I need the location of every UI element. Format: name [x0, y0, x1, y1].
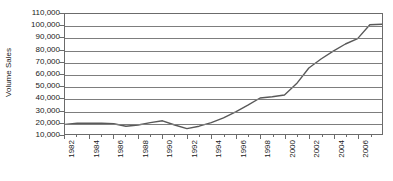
- x-tick-label: 2006: [362, 140, 370, 158]
- x-tick-mark-major: [211, 135, 212, 139]
- x-tick-mark-minor: [371, 135, 372, 137]
- y-tick-label: 110,000: [32, 9, 60, 17]
- y-tick-label: 30,000: [36, 107, 60, 115]
- y-axis-title-text: Volume Sales: [4, 48, 13, 97]
- gridline: [65, 75, 382, 76]
- x-tick-mark-major: [358, 135, 359, 139]
- y-tick-mark: [59, 98, 64, 99]
- x-axis-tick-labels: 1982198419861988199019921994199619982000…: [64, 140, 383, 181]
- x-tick-mark-minor: [273, 135, 274, 137]
- y-tick-label: 10,000: [36, 131, 60, 139]
- gridline: [65, 63, 382, 64]
- x-tick-mark-minor: [76, 135, 77, 137]
- x-tick-label: 1994: [215, 140, 223, 158]
- y-tick-label: 90,000: [36, 33, 60, 41]
- x-tick-mark-minor: [125, 135, 126, 137]
- x-tick-mark-minor: [322, 135, 323, 137]
- x-tick-mark-minor: [199, 135, 200, 137]
- x-tick-mark-minor: [101, 135, 102, 137]
- x-tick-label: 1996: [240, 140, 248, 158]
- x-tick-mark-major: [187, 135, 188, 139]
- y-tick-label: 70,000: [36, 58, 60, 66]
- x-tick-mark-minor: [297, 135, 298, 137]
- line-chart: Volume Sales 110,000100,00090,00080,0007…: [0, 0, 393, 181]
- gridline: [65, 99, 382, 100]
- gridline: [65, 112, 382, 113]
- x-tick-mark-major: [236, 135, 237, 139]
- x-tick-label: 1988: [142, 140, 150, 158]
- x-tick-mark-minor: [224, 135, 225, 137]
- y-tick-mark: [59, 37, 64, 38]
- x-tick-mark-major: [162, 135, 163, 139]
- series-line-volume-sales: [65, 14, 382, 134]
- x-tick-mark-minor: [346, 135, 347, 137]
- y-tick-mark: [59, 135, 64, 136]
- gridline: [65, 38, 382, 39]
- gridline: [65, 26, 382, 27]
- x-tick-mark-major: [138, 135, 139, 139]
- x-tick-label: 1982: [68, 140, 76, 158]
- y-tick-label: 80,000: [36, 46, 60, 54]
- gridline: [65, 51, 382, 52]
- y-tick-mark: [59, 25, 64, 26]
- y-tick-mark: [59, 13, 64, 14]
- y-tick-mark: [59, 74, 64, 75]
- x-tick-label: 1990: [166, 140, 174, 158]
- x-tick-label: 2000: [289, 140, 297, 158]
- gridline: [65, 124, 382, 125]
- x-tick-label: 1992: [191, 140, 199, 158]
- x-tick-mark-major: [89, 135, 90, 139]
- x-tick-mark-major: [64, 135, 65, 139]
- gridline: [65, 87, 382, 88]
- y-tick-label: 40,000: [36, 94, 60, 102]
- y-tick-mark: [59, 86, 64, 87]
- x-tick-label: 1984: [93, 140, 101, 158]
- x-tick-label: 1986: [117, 140, 125, 158]
- y-tick-mark: [59, 50, 64, 51]
- x-tick-mark-major: [334, 135, 335, 139]
- x-tick-label: 1998: [264, 140, 272, 158]
- x-tick-label: 2004: [338, 140, 346, 158]
- y-tick-label: 60,000: [36, 70, 60, 78]
- y-tick-label: 20,000: [36, 119, 60, 127]
- x-tick-mark-minor: [248, 135, 249, 137]
- y-tick-mark: [59, 62, 64, 63]
- x-tick-mark-major: [309, 135, 310, 139]
- y-axis-tick-labels: 110,000100,00090,00080,00070,00060,00050…: [16, 0, 62, 145]
- y-tick-mark: [59, 123, 64, 124]
- y-axis-title: Volume Sales: [0, 0, 16, 145]
- x-tick-mark-major: [113, 135, 114, 139]
- x-tick-label: 2002: [313, 140, 321, 158]
- x-tick-mark-minor: [150, 135, 151, 137]
- plot-area: [64, 13, 383, 135]
- x-tick-mark-major: [260, 135, 261, 139]
- x-tick-mark-major: [285, 135, 286, 139]
- y-tick-label: 100,000: [31, 21, 60, 29]
- y-tick-label: 50,000: [36, 82, 60, 90]
- x-tick-mark-minor: [174, 135, 175, 137]
- y-tick-mark: [59, 111, 64, 112]
